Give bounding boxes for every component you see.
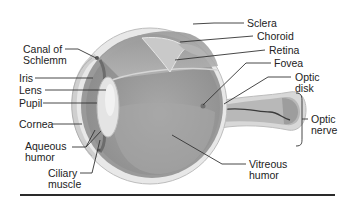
label-optic-nerve: Optic nerve — [311, 114, 337, 136]
label-ciliary-muscle: Ciliary muscle — [48, 168, 81, 190]
label-canal-of-schlemm: Canal of Schlemm — [23, 44, 67, 66]
eye-diagram: Canal of Schlemm Iris Lens Pupil Cornea … — [0, 0, 352, 207]
label-choroid: Choroid — [257, 31, 294, 42]
label-retina: Retina — [269, 45, 299, 56]
label-sclera: Sclera — [247, 18, 277, 29]
optic-nerve-shape — [215, 92, 306, 131]
label-pupil: Pupil — [19, 98, 42, 109]
label-lens: Lens — [19, 85, 42, 96]
label-iris: Iris — [19, 73, 33, 84]
label-cornea: Cornea — [19, 119, 53, 130]
label-optic-disk: Optic disk — [295, 72, 320, 94]
label-aqueous-humor: Aqueous humor — [25, 141, 66, 163]
label-fovea: Fovea — [274, 58, 303, 69]
bottom-divider — [20, 194, 335, 196]
label-vitreous-humor: Vitreous humor — [249, 159, 287, 181]
